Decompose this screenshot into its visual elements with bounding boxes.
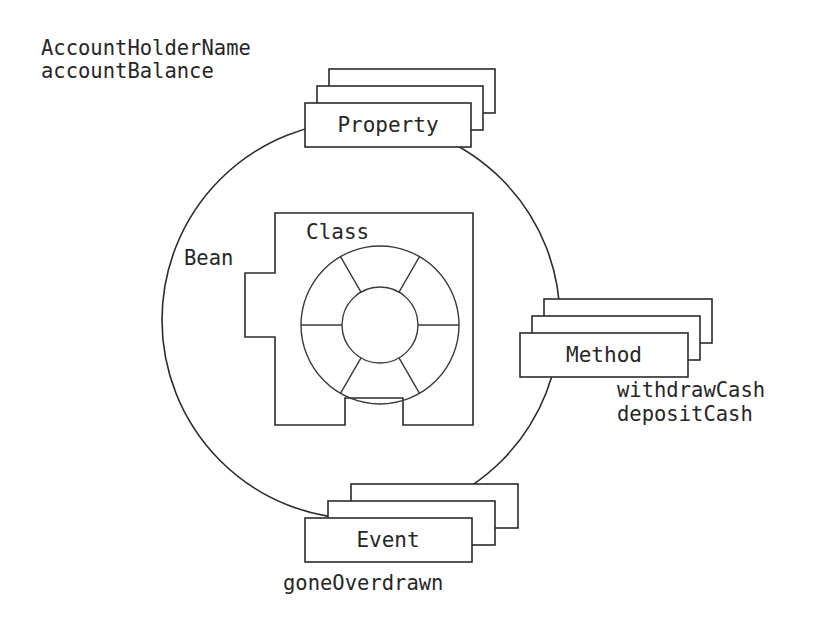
diagram-canvas: Property Method Event Bean Class Account…	[0, 0, 827, 624]
class-label: Class	[306, 220, 369, 244]
wheel-inner-circle	[342, 287, 418, 363]
event-label: Event	[356, 528, 419, 552]
event-annotation-line-1: goneOverdrawn	[283, 571, 443, 595]
bean-label: Bean	[184, 246, 233, 270]
wheel-spoke-60	[399, 257, 420, 293]
method-annotation-line-2: depositCash	[617, 402, 753, 426]
wheel-spoke-120	[341, 257, 362, 293]
property-label: Property	[337, 113, 438, 137]
wheel-spoke-240	[341, 358, 362, 394]
property-annotation-line-2: accountBalance	[41, 59, 214, 83]
bean-circle	[162, 121, 560, 519]
class-shape	[245, 213, 473, 425]
diagram-svg: Property Method Event Bean Class Account…	[0, 0, 827, 624]
property-annotation-line-1: AccountHolderName	[41, 36, 251, 60]
method-annotation-line-1: withdrawCash	[617, 378, 765, 402]
event-stack[interactable]: Event	[305, 484, 518, 562]
wheel-spoke-300	[399, 358, 420, 394]
property-stack[interactable]: Property	[305, 69, 495, 147]
method-stack[interactable]: Method	[520, 299, 712, 377]
class-wheel	[301, 246, 459, 404]
method-label: Method	[566, 343, 642, 367]
